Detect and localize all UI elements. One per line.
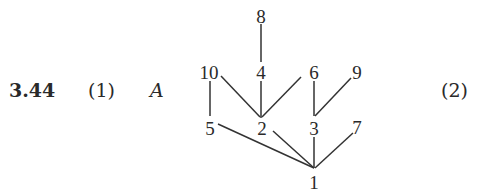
- node-10: 10: [200, 62, 219, 83]
- node-3: 3: [309, 118, 319, 139]
- edge-7-1: [315, 133, 353, 168]
- edge-2-1: [273, 131, 314, 168]
- node-5: 5: [205, 118, 215, 139]
- node-9: 9: [352, 62, 362, 83]
- edge-6-2: [262, 77, 301, 117]
- node-7: 7: [352, 117, 362, 138]
- node-4: 4: [256, 62, 266, 83]
- node-6: 6: [309, 62, 319, 83]
- node-1: 1: [309, 172, 319, 190]
- hasse-diagram: 8 10 4 6 9 5 2 3 7 1: [0, 0, 499, 190]
- edge-10-2: [221, 76, 260, 117]
- edges: [210, 24, 353, 168]
- edge-9-3: [315, 78, 351, 116]
- node-8: 8: [256, 6, 266, 27]
- node-2: 2: [257, 118, 267, 139]
